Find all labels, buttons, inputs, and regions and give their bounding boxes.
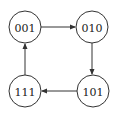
state-node-010: 010 [76,11,108,43]
state-label-010: 010 [82,22,103,35]
state-node-111: 111 [9,75,41,107]
state-node-001: 001 [9,11,41,43]
state-label-101: 101 [83,86,104,99]
state-label-111: 111 [15,86,36,99]
state-node-101: 101 [77,75,109,107]
state-diagram: 001 010 101 111 [0,0,118,116]
state-label-001: 001 [15,22,36,35]
